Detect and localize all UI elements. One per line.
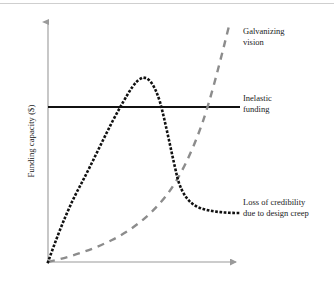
chart-figure: Funding capacity ($) Galvanizing vision … [0, 0, 334, 299]
annotation-inelastic-funding: Inelastic funding [243, 93, 272, 115]
y-axis-label: Funding capacity ($) [26, 66, 36, 216]
series-loss-of-credibility [48, 78, 240, 262]
series-galvanizing-vision [48, 26, 229, 262]
annotation-loss-of-credibility: Loss of credibility due to design creep [243, 197, 309, 219]
annotation-galvanizing-vision: Galvanizing vision [243, 26, 285, 48]
